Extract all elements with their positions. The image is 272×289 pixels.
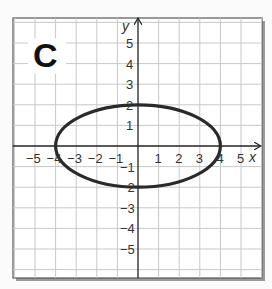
y-tick-label: −4 xyxy=(120,221,135,236)
x-tick-label: −5 xyxy=(26,151,41,166)
y-tick-label: −2 xyxy=(120,180,135,195)
x-axis-label: x xyxy=(248,149,257,165)
y-tick-label: −5 xyxy=(120,242,135,257)
y-tick-label: 3 xyxy=(126,77,133,92)
y-tick-label: 5 xyxy=(126,36,133,51)
x-tick-label: 5 xyxy=(237,151,244,166)
x-tick-label: −3 xyxy=(67,151,82,166)
x-tick-label: 2 xyxy=(175,151,182,166)
y-tick-label: −3 xyxy=(120,201,135,216)
x-tick-label: −4 xyxy=(47,151,62,166)
x-tick-label: 1 xyxy=(155,151,162,166)
x-tick-label: −2 xyxy=(88,151,103,166)
panel-label: C xyxy=(33,36,58,74)
y-tick-label: 2 xyxy=(126,98,133,113)
graph-panel: −5−4−3−2−112345 54321−1−2−3−4−5 x y C xyxy=(0,0,272,289)
x-tick-label: 3 xyxy=(196,151,203,166)
x-tick-label: 4 xyxy=(216,151,223,166)
y-tick-label: 1 xyxy=(126,118,133,133)
y-axis-label: y xyxy=(121,18,130,34)
y-tick-label: 4 xyxy=(126,57,133,72)
y-tick-label: −1 xyxy=(120,160,135,175)
